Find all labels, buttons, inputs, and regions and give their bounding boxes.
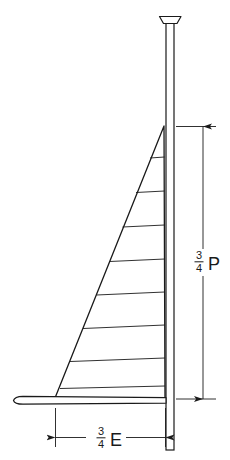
fraction-numerator: 3: [98, 425, 104, 437]
masthead-cap-icon: [160, 17, 182, 24]
sail-plan-canvas: 3 4 P 3 4 E: [0, 0, 230, 460]
mast-tube: [166, 22, 174, 450]
sail-plan-diagram: 3 4 P 3 4 E: [0, 0, 230, 460]
dimension-symbol-p: P: [208, 254, 220, 274]
fraction-numerator: 3: [196, 249, 202, 261]
boom-spar: [14, 396, 167, 404]
fraction-denominator: 4: [196, 262, 202, 274]
boom: [14, 396, 167, 404]
fraction-denominator: 4: [98, 438, 104, 450]
dimension-symbol-e: E: [110, 430, 122, 450]
